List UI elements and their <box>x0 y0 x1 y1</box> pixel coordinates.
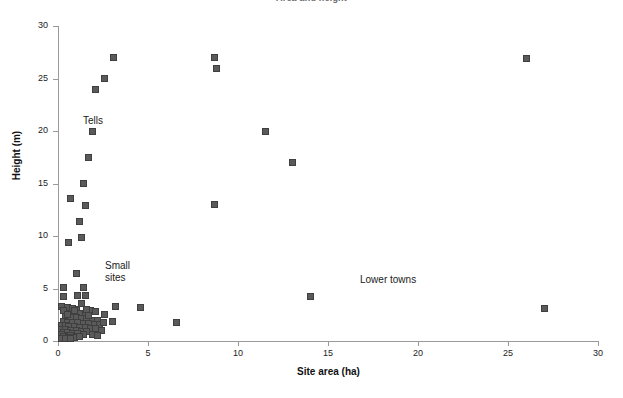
data-point <box>76 218 83 225</box>
y-tick-label-5: 5 <box>24 283 48 293</box>
x-tick-label-30: 30 <box>586 348 610 358</box>
data-point <box>109 318 116 325</box>
y-tick-label-15: 15 <box>24 178 48 188</box>
data-point <box>80 284 87 291</box>
y-tick-label-30: 30 <box>24 20 48 30</box>
x-tick-label-5: 5 <box>136 348 160 358</box>
x-tick-20 <box>418 341 419 346</box>
x-tick-25 <box>508 341 509 346</box>
data-point <box>211 54 218 61</box>
data-point <box>73 270 80 277</box>
data-point <box>289 159 296 166</box>
data-point <box>67 195 74 202</box>
y-tick-5 <box>53 289 58 290</box>
y-tick-label-20: 20 <box>24 125 48 135</box>
y-axis-title: Height (m) <box>11 116 22 196</box>
y-tick-label-10: 10 <box>24 230 48 240</box>
y-tick-20 <box>53 131 58 132</box>
data-point <box>262 128 269 135</box>
data-point <box>60 284 67 291</box>
x-tick-10 <box>238 341 239 346</box>
chart-title: Area and height <box>0 0 623 3</box>
data-point <box>67 335 74 342</box>
x-tick-label-10: 10 <box>226 348 250 358</box>
y-tick-25 <box>53 79 58 80</box>
annotation-lower-towns: Lower towns <box>360 274 416 286</box>
data-point <box>110 54 117 61</box>
y-axis-line <box>58 26 59 342</box>
y-tick-10 <box>53 236 58 237</box>
data-point <box>307 293 314 300</box>
x-tick-15 <box>328 341 329 346</box>
data-point <box>82 202 89 209</box>
data-point <box>78 234 85 241</box>
data-point <box>173 319 180 326</box>
x-tick-label-20: 20 <box>406 348 430 358</box>
x-tick-label-25: 25 <box>496 348 520 358</box>
x-tick-5 <box>148 341 149 346</box>
data-point <box>100 319 107 326</box>
annotation-tells: Tells <box>83 115 103 127</box>
data-point <box>60 293 67 300</box>
data-point <box>76 333 83 340</box>
data-point <box>65 239 72 246</box>
data-point <box>89 128 96 135</box>
data-point <box>71 307 78 314</box>
data-point <box>94 332 101 339</box>
data-point <box>101 75 108 82</box>
y-tick-label-0: 0 <box>24 335 48 345</box>
scatter-chart: Area and height 051015202530 05101520253… <box>0 0 623 398</box>
data-point <box>523 55 530 62</box>
data-point <box>64 311 71 318</box>
data-point <box>85 154 92 161</box>
data-point <box>80 180 87 187</box>
data-point <box>112 303 119 310</box>
data-point <box>137 304 144 311</box>
x-tick-label-15: 15 <box>316 348 340 358</box>
data-point <box>211 201 218 208</box>
x-axis-title: Site area (ha) <box>58 366 599 377</box>
data-point <box>74 292 81 299</box>
data-point <box>92 308 99 315</box>
x-tick-label-0: 0 <box>46 348 70 358</box>
data-point <box>82 292 89 299</box>
data-point <box>541 305 548 312</box>
data-point <box>213 65 220 72</box>
y-tick-15 <box>53 184 58 185</box>
data-point <box>101 311 108 318</box>
y-tick-label-25: 25 <box>24 73 48 83</box>
annotation-small-sites: Small sites <box>105 260 130 284</box>
x-tick-30 <box>598 341 599 346</box>
data-point <box>92 86 99 93</box>
y-tick-30 <box>53 26 58 27</box>
data-point <box>85 312 92 319</box>
